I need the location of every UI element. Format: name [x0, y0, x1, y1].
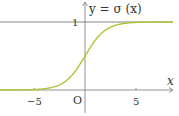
x-tick-label-neg5: −5 [27, 96, 42, 107]
sigmoid-curve [0, 22, 173, 90]
x-axis-label: x [167, 74, 174, 88]
curve-label: y = σ (x) [88, 2, 142, 16]
origin-label: O [73, 94, 82, 107]
x-tick-label-5: 5 [133, 96, 139, 107]
y-tick-label-1: 1 [72, 17, 78, 28]
sigmoid-chart: y = σ (x) 1 x O −5 5 [0, 0, 179, 116]
